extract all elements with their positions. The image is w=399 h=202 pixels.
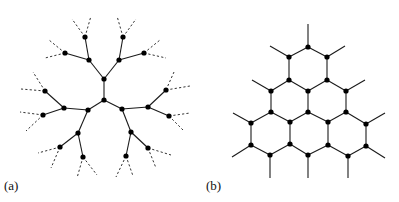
dashed-branch [51, 147, 60, 168]
lattice-node [345, 153, 350, 158]
dashed-branch [116, 156, 126, 177]
lattice-node [343, 88, 348, 93]
tree-edge [60, 133, 78, 147]
lattice-bond [328, 145, 348, 156]
lattice-node [363, 121, 368, 126]
lattice-bond [308, 145, 328, 155]
lattice-bond [289, 80, 308, 91]
lattice-node [75, 130, 80, 135]
tree-edge [78, 133, 83, 157]
tree-edge [119, 53, 144, 60]
tree-edge [89, 60, 104, 79]
lattice-bond [348, 146, 366, 156]
lattice-node [141, 50, 146, 55]
lattice-node [116, 57, 121, 62]
dashed-branch [126, 156, 133, 176]
dashed-branch [38, 147, 60, 153]
panel-a-dashed-branches [20, 16, 190, 178]
dangling-bond [232, 145, 251, 157]
lattice-bond [308, 112, 328, 122]
dashed-branch [169, 116, 184, 131]
lattice-node [62, 50, 67, 55]
dashed-branch [148, 148, 156, 168]
panel-a-bethe-lattice [20, 16, 190, 178]
lattice-node [145, 104, 150, 109]
lattice-node [145, 145, 150, 150]
lattice-bond [290, 144, 308, 155]
lattice-node [324, 54, 329, 59]
tree-edge [65, 53, 89, 60]
dashed-branch [20, 112, 43, 115]
tree-edge [43, 108, 64, 115]
lattice-node [166, 113, 171, 118]
lattice-node [40, 112, 45, 117]
lattice-node [248, 142, 253, 147]
dangling-bond [366, 113, 385, 124]
lattice-node [305, 88, 310, 93]
dashed-branch [144, 53, 166, 58]
lattice-bond [308, 47, 327, 57]
lattice-node [325, 119, 330, 124]
lattice-node [287, 141, 292, 146]
lattice-bond [251, 145, 270, 155]
tree-edge [45, 91, 64, 108]
tree-edge [104, 60, 119, 79]
panel-b-edges [251, 47, 366, 156]
lattice-node [287, 119, 292, 124]
dashed-branch [72, 19, 85, 37]
tree-edge [85, 37, 89, 60]
lattice-bond [270, 144, 290, 155]
lattice-node [343, 109, 348, 114]
dashed-branch [169, 113, 190, 116]
lattice-node [163, 87, 168, 92]
tree-edge [119, 37, 123, 60]
lattice-node [267, 152, 272, 157]
lattice-node [324, 77, 329, 82]
tree-edge [122, 109, 131, 132]
dashed-branch [45, 53, 65, 58]
panel-b-honeycomb-lattice [232, 24, 385, 178]
tree-edge [88, 100, 104, 110]
lattice-node [80, 154, 85, 159]
dashed-branch [85, 16, 91, 37]
tree-edge [126, 132, 131, 156]
lattice-node [85, 107, 90, 112]
dashed-branch [166, 86, 190, 90]
lattice-bond [327, 80, 346, 91]
dashed-branch [144, 40, 160, 53]
panel-a-label: (a) [4, 178, 18, 194]
lattice-node [86, 57, 91, 62]
tree-edge [148, 107, 169, 116]
panel-a-nodes [40, 34, 171, 159]
lattice-bond [308, 80, 327, 91]
dashed-branch [33, 72, 45, 91]
dangling-bond [366, 146, 385, 158]
lattice-node [128, 129, 133, 134]
dashed-branch [123, 19, 136, 37]
lattice-node [286, 77, 291, 82]
dashed-branch [26, 115, 43, 131]
tree-edge [122, 107, 148, 109]
tree-edge [148, 90, 166, 107]
lattice-node [123, 153, 128, 158]
lattice-node [101, 97, 106, 102]
lattice-node [120, 34, 125, 39]
lattice-node [325, 142, 330, 147]
dangling-bond [327, 46, 345, 57]
lattice-node [268, 109, 273, 114]
dangling-bond [270, 46, 289, 57]
dashed-branch [148, 148, 171, 155]
dashed-branch [77, 157, 83, 178]
dangling-bond [252, 80, 271, 91]
dashed-branch [83, 157, 97, 175]
lattice-node [61, 105, 66, 110]
dashed-branch [166, 72, 174, 90]
lattice-node [119, 106, 124, 111]
lattice-node [268, 88, 273, 93]
lattice-bond [271, 112, 290, 122]
dashed-branch [21, 89, 45, 91]
tree-edge [64, 108, 88, 110]
lattice-node [305, 44, 310, 49]
tree-edge [131, 132, 148, 148]
lattice-node [101, 76, 106, 81]
